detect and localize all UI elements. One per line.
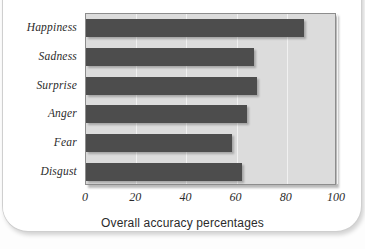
x-axis-title: Overall accuracy percentages [0,216,365,230]
category-label-anger: Anger [48,107,77,119]
x-tick-100: 100 [327,190,345,205]
category-axis-labels: HappinessSadnessSurpriseAngerFearDisgust [0,13,83,185]
gridline [337,14,338,184]
bar-disgust [86,163,242,181]
chart-figure: HappinessSadnessSurpriseAngerFearDisgust… [0,0,365,249]
plot-background [85,13,336,185]
category-label-fear: Fear [54,136,77,148]
bar-row [86,163,337,181]
bar-fear [86,134,232,152]
plot-area [85,13,336,185]
x-axis-tick-labels: 020406080100 [85,190,336,208]
bar-sadness [86,48,254,66]
category-label-surprise: Surprise [36,79,77,91]
bar-row [86,134,337,152]
bar-row [86,105,337,123]
x-tick-60: 60 [230,190,242,205]
x-tick-40: 40 [179,190,191,205]
category-label-happiness: Happiness [27,21,77,33]
category-label-disgust: Disgust [40,165,77,177]
bar-row [86,19,337,37]
category-label-sadness: Sadness [39,50,77,62]
x-tick-20: 20 [129,190,141,205]
bar-happiness [86,19,304,37]
bar-surprise [86,77,257,95]
x-tick-0: 0 [82,190,88,205]
bar-series [86,14,335,184]
x-tick-80: 80 [280,190,292,205]
bar-row [86,77,337,95]
bar-anger [86,105,247,123]
bar-row [86,48,337,66]
